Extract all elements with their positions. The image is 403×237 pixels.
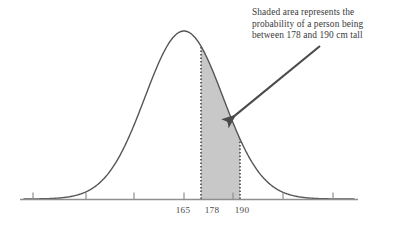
x-tick-label-165: 165 — [176, 205, 190, 215]
annotation-text-block: Shaded area represents the probability o… — [252, 7, 400, 42]
shaded-probability-area — [24, 31, 354, 199]
normal-distribution-figure: Shaded area represents the probability o… — [0, 0, 403, 237]
annotation-line-1: Shaded area represents the — [252, 7, 400, 19]
annotation-line-2: probability of a person being — [252, 19, 400, 31]
callout-arrow — [227, 46, 320, 122]
annotation-line-3: between 178 and 190 cm tall — [252, 30, 400, 42]
x-tick-label-178: 178 — [205, 205, 219, 215]
x-tick-label-190: 190 — [235, 205, 249, 215]
normal-curve — [24, 31, 354, 199]
